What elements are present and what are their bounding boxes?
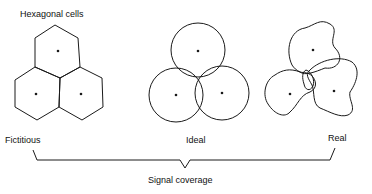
coverage-brace bbox=[33, 148, 335, 168]
hex-center-top bbox=[57, 50, 60, 53]
ideal-center-top bbox=[197, 50, 200, 53]
hex-center-left bbox=[35, 93, 38, 96]
cell-coverage-diagram bbox=[0, 0, 372, 194]
real-center-right bbox=[333, 90, 336, 93]
real-center-left bbox=[289, 93, 292, 96]
real-label: Real bbox=[328, 133, 347, 143]
hex-cell-left bbox=[15, 67, 60, 120]
signal-coverage-label: Signal coverage bbox=[148, 175, 213, 185]
ideal-center-right bbox=[221, 92, 224, 95]
hex-center-right bbox=[80, 93, 83, 96]
hexagonal-cells-label: Hexagonal cells bbox=[20, 9, 84, 19]
fictitious-label: Fictitious bbox=[5, 135, 41, 145]
ideal-center-left bbox=[175, 94, 178, 97]
ideal-label: Ideal bbox=[186, 135, 206, 145]
real-center-top bbox=[312, 49, 315, 52]
